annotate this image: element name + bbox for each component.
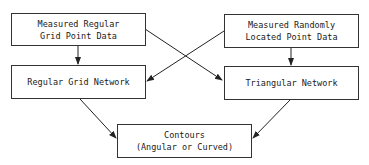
node-label-line: Regular Grid Network [27, 76, 129, 88]
node-label-line: Triangular Network [245, 77, 337, 89]
node-contours: Contours (Angular or Curved) [117, 124, 252, 158]
node-label-line: Contours [164, 129, 205, 141]
node-measured-regular: Measured Regular Grid Point Data [11, 13, 146, 46]
arrow-grid-to-contours [80, 99, 116, 138]
node-label-line: Located Point Data [245, 31, 337, 43]
node-label-line: Grid Point Data [40, 30, 117, 42]
node-measured-random: Measured Randomly Located Point Data [224, 14, 359, 48]
node-label-line: (Angular or Curved) [136, 141, 233, 153]
node-label-line: Measured Regular [38, 18, 120, 30]
node-triangular-network: Triangular Network [224, 66, 359, 100]
arrow-triangular-to-contours [253, 100, 290, 138]
arrow-regular-to-triangular [145, 29, 222, 80]
node-label-line: Measured Randomly [248, 19, 335, 31]
node-regular-grid-network: Regular Grid Network [11, 65, 146, 99]
